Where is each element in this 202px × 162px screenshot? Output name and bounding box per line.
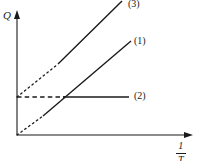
curve-line-3-dotted-extension — [17, 64, 58, 97]
x-axis-fraction-numerator: 1 — [176, 141, 186, 152]
curve-line-3 — [17, 1, 122, 97]
qt-plot-figure: Q 1 T (3) (1) (2) — [0, 0, 202, 161]
curve-line-1-solid — [43, 41, 131, 116]
y-axis-label: Q — [3, 10, 11, 21]
x-axis-fraction: 1 T — [176, 141, 186, 161]
x-axis-label: 1 T — [176, 141, 186, 161]
curve-line-1 — [17, 41, 131, 135]
curve-line-3-solid — [58, 1, 122, 64]
y-axis-arrow-icon — [14, 10, 20, 19]
y-axis — [14, 10, 20, 135]
x-axis — [17, 132, 193, 138]
curve-line-1-dotted-extension — [17, 116, 43, 135]
x-axis-arrow-icon — [184, 132, 193, 138]
plot-canvas — [0, 0, 202, 161]
curve-label-2: (2) — [134, 91, 146, 101]
x-axis-fraction-denominator: T — [176, 155, 186, 162]
curve-label-3: (3) — [128, 0, 140, 9]
curve-label-1: (1) — [134, 36, 146, 46]
